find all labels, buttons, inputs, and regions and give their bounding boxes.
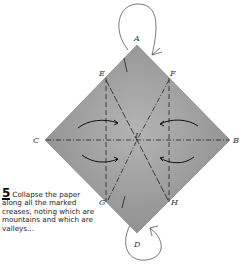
label-f: F — [169, 69, 176, 78]
label-d: D — [133, 240, 141, 249]
label-e: E — [98, 69, 105, 78]
label-h: H — [170, 198, 179, 207]
top-rotation-arrow — [119, 4, 162, 55]
label-a: A — [133, 34, 140, 43]
bottom-rotation-arrow — [126, 225, 162, 260]
label-c: C — [33, 136, 39, 145]
step-text: Collapse the paper along all the marked … — [2, 190, 94, 233]
label-b: B — [232, 136, 239, 145]
step-caption: 5Collapse the paper along all the marked… — [2, 189, 102, 233]
step-number: 5 — [2, 189, 10, 197]
